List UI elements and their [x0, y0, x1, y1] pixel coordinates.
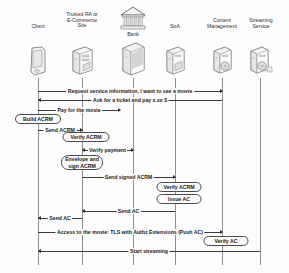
action-label-line2: sign ACRM [68, 163, 95, 169]
action-envelope-and-sign-acrm[interactable]: Envelope and sign ACRM [61, 155, 103, 170]
message-send-ac-ra-to-client[interactable]: Send AC [38, 214, 82, 223]
server-tower-icon [69, 45, 95, 80]
arrow-right-icon [131, 148, 134, 152]
message-label: Send signed ACRM [103, 174, 154, 180]
arrow-left-icon [82, 148, 85, 152]
action-label: Build ACRM [23, 116, 53, 122]
actor-label-streaming-line2: Service [236, 24, 286, 30]
arrow-left-icon [38, 249, 41, 253]
action-label: Verify AC [215, 238, 238, 244]
action-label: Envelope and sign ACRM [65, 156, 99, 168]
message-send-signed-acrm[interactable]: Send signed ACRM [82, 173, 175, 182]
lifeline-bank [133, 78, 134, 265]
bank-server-rack-icon [118, 40, 148, 80]
bank-building-icon [119, 6, 147, 36]
server-icon [163, 45, 187, 80]
sequence-diagram-canvas: Client Trusted RA or E-Commerce Site [0, 0, 289, 273]
arrow-right-icon [173, 175, 176, 179]
actor-label-ra-line3: Site [55, 23, 109, 29]
arrow-left-icon [38, 216, 41, 220]
actor-ra[interactable]: Trusted RA or E-Commerce Site [55, 12, 109, 29]
message-label: Access to the movie: TLS with Authz Exte… [55, 229, 204, 235]
action-verify-ac[interactable]: Verify AC [204, 236, 249, 246]
arrow-right-icon [118, 108, 121, 112]
message-label: Verify payment [88, 147, 128, 153]
arrow-right-icon [220, 230, 223, 234]
message-request-service-information[interactable]: Request service information, I want to s… [38, 87, 222, 96]
actor-client[interactable]: Client [31, 24, 44, 30]
message-label: Send AC [116, 208, 140, 214]
message-label: Send AC [48, 215, 72, 221]
media-server-icon [247, 45, 275, 80]
action-label-line1: Envelope and [65, 156, 99, 162]
action-label: Verify ACRM [71, 134, 102, 140]
actor-streaming-service[interactable]: Streaming Service [236, 18, 286, 29]
arrow-right-icon [220, 89, 223, 93]
arrow-left-icon [38, 98, 41, 102]
lifeline-soa [175, 78, 176, 265]
action-label: Issue AC [168, 196, 190, 202]
message-access-to-the-movie[interactable]: Access to the movie: TLS with Authz Exte… [38, 228, 222, 237]
actor-label-soa: SoA [170, 24, 180, 30]
arrow-left-icon [82, 209, 85, 213]
action-verify-acrm-soa[interactable]: Verify ACRM [157, 182, 202, 192]
message-label: Start streaming [128, 248, 169, 254]
actor-soa[interactable]: SoA [170, 24, 180, 30]
message-label: Request service information, I want to s… [66, 88, 194, 94]
message-start-streaming[interactable]: Start streaming [38, 247, 260, 256]
message-label: Pay for the movie [56, 107, 102, 113]
message-label: Ask for a ticket and pay x.xx $ [91, 97, 168, 103]
lifeline-streaming [260, 78, 261, 265]
message-verify-payment[interactable]: Verify payment [82, 146, 133, 155]
message-send-ac-soa-to-ra[interactable]: Send AC [82, 207, 175, 216]
message-ask-for-ticket-and-pay[interactable]: Ask for a ticket and pay x.xx $ [38, 96, 222, 105]
action-label: Verify ACRM [164, 184, 195, 190]
mobile-device-icon [28, 46, 48, 80]
action-build-acrm[interactable]: Build ACRM [15, 114, 61, 124]
media-server-icon [210, 45, 234, 80]
action-issue-ac[interactable]: Issue AC [157, 194, 202, 204]
action-verify-acrm-ra[interactable]: Verify ACRM [63, 132, 110, 142]
actor-label-client: Client [31, 24, 44, 30]
